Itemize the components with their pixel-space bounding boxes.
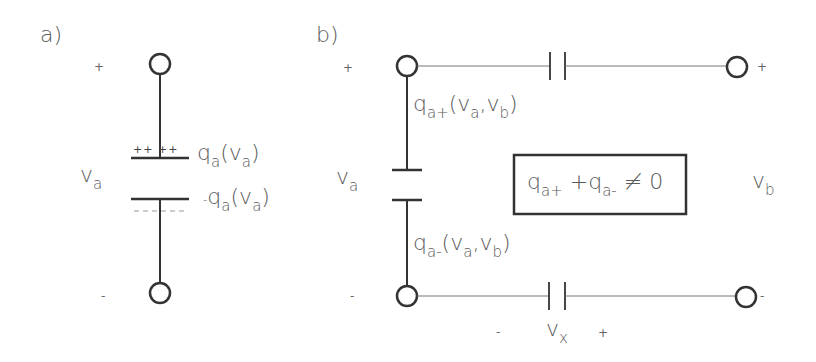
charge-label-top-b: qa+(va,vb): [413, 93, 518, 115]
terminal-bottom-right-b: [736, 287, 756, 307]
terminal-bottom-left-b: [397, 286, 417, 306]
voltage-va-b: va: [336, 166, 358, 188]
box-equation: qa+ +qa- ≠ 0: [527, 171, 663, 193]
plus-sign-right-b: +: [757, 61, 767, 73]
terminal-top-left-b: [397, 56, 417, 76]
terminal-top-a: [150, 54, 170, 74]
charge-label-top-a: qa(va): [197, 142, 260, 164]
terminal-top-right-b: [727, 57, 747, 77]
minus-sign-left-b: -: [350, 290, 354, 302]
vx-minus-sign: -: [496, 326, 500, 338]
vx-plus-sign: +: [598, 327, 608, 339]
top-plate-charges: ++ ++: [133, 144, 178, 155]
minus-sign-a: -: [101, 290, 105, 302]
voltage-vb: vb: [752, 170, 775, 192]
panel-a-circuit: [131, 54, 189, 303]
voltage-vx: vx: [546, 318, 568, 340]
circuit-diagram: [0, 0, 816, 362]
terminal-bottom-a: [150, 283, 170, 303]
plus-sign-left-b: +: [343, 62, 353, 74]
panel-a-label: a): [40, 24, 62, 46]
minus-sign-right-b: -: [760, 290, 764, 302]
charge-label-bottom-a: -qa(va): [203, 186, 270, 208]
charge-label-bottom-b: qa-(va,vb): [413, 232, 511, 254]
plus-sign-a: +: [94, 61, 104, 73]
panel-b-label: b): [316, 24, 339, 46]
voltage-va-a: va: [80, 164, 102, 186]
